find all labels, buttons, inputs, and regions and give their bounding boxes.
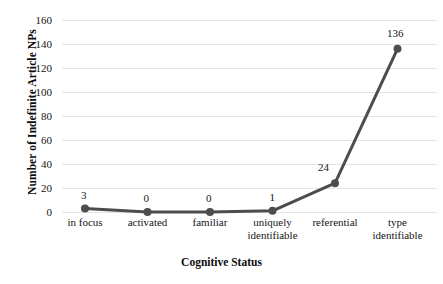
series-polyline xyxy=(85,49,398,212)
x-axis-title: Cognitive Status xyxy=(0,256,443,268)
y-tick-label-160: 160 xyxy=(12,15,52,26)
x-tick-label-type-identifiable: type identifiable xyxy=(351,216,443,241)
data-label-referential: 24 xyxy=(318,162,329,173)
data-label-in-focus: 3 xyxy=(81,190,87,201)
y-tick-label-140: 140 xyxy=(12,39,52,50)
data-point-uniquely-identifiable xyxy=(269,207,277,215)
data-point-familiar xyxy=(206,208,214,216)
chart-container: Number of Indefinite Article NPs 160 140… xyxy=(0,0,443,284)
plot-area: 3 0 0 1 24 136 xyxy=(62,20,437,212)
data-point-activated xyxy=(144,208,152,216)
y-tick-label-20: 20 xyxy=(12,183,52,194)
data-label-type-identifiable: 136 xyxy=(387,28,404,39)
data-point-type-identifiable xyxy=(394,45,402,53)
data-label-uniquely-identifiable: 1 xyxy=(270,192,276,203)
x-tick-label-uniquely-identifiable-line2: identifiable xyxy=(226,229,320,242)
y-tick-label-80: 80 xyxy=(12,111,52,122)
y-tick-label-60: 60 xyxy=(12,135,52,146)
data-point-in-focus xyxy=(81,204,89,212)
series-line-indefinite-article-nps xyxy=(62,20,437,212)
y-tick-label-40: 40 xyxy=(12,159,52,170)
data-label-activated: 0 xyxy=(144,193,150,204)
data-label-familiar: 0 xyxy=(206,193,212,204)
x-tick-label-type-identifiable-line2: identifiable xyxy=(351,229,443,242)
x-tick-label-type-identifiable-line1: type xyxy=(351,216,443,229)
x-axis-tick-labels: in focus activated familiar uniquely ide… xyxy=(62,216,437,252)
y-tick-label-120: 120 xyxy=(12,63,52,74)
y-tick-label-100: 100 xyxy=(12,87,52,98)
data-point-referential xyxy=(331,179,339,187)
